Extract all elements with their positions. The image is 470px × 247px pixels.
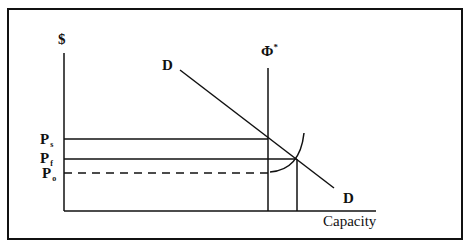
price-label-po: Po (42, 165, 56, 183)
diagram-frame (8, 9, 462, 239)
x-axis-label: Capacity (323, 213, 377, 229)
demand-label-bottom: D (343, 190, 354, 206)
price-label-ps: Ps (40, 131, 53, 149)
demand-curve (180, 70, 334, 188)
capacity-label: Φ* (261, 42, 278, 59)
svg-text:Ps: Ps (40, 131, 53, 149)
svg-text:Po: Po (42, 165, 56, 183)
demand-label-top: D (162, 57, 173, 73)
capacity-pricing-diagram: $ Capacity Φ* D D Ps Pf Po (0, 0, 470, 247)
y-axis-label: $ (58, 31, 66, 47)
